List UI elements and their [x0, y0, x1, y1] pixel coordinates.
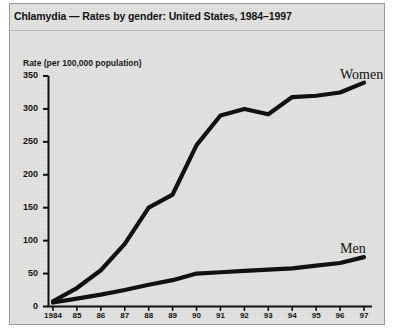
- x-tick-label: 93: [255, 311, 281, 320]
- x-tick-label: 90: [184, 311, 210, 320]
- x-tick-label: 87: [112, 311, 138, 320]
- x-tick-label: 95: [303, 311, 329, 320]
- y-tick-label: 100: [8, 235, 38, 245]
- x-tick-label: 89: [160, 311, 186, 320]
- y-tick-label: 350: [8, 70, 38, 80]
- series-line-men: [53, 257, 364, 302]
- x-tick-label: 97: [351, 311, 377, 320]
- y-tick-label: 200: [8, 169, 38, 179]
- y-tick-label: 0: [8, 301, 38, 311]
- x-tick-label: 88: [136, 311, 162, 320]
- series-label-men: Men: [340, 241, 366, 257]
- x-tick-label: 85: [64, 311, 90, 320]
- y-tick-label: 250: [8, 136, 38, 146]
- series-line-women: [53, 83, 364, 302]
- y-tick-label: 150: [8, 202, 38, 212]
- x-tick-label: 1984: [40, 311, 66, 320]
- x-tick-label: 91: [207, 311, 233, 320]
- x-tick-label: 94: [279, 311, 305, 320]
- chart-title: Chlamydia — Rates by gender: United Stat…: [14, 10, 292, 22]
- y-axis-label: Rate (per 100,000 population): [23, 58, 142, 68]
- x-tick-label: 96: [327, 311, 353, 320]
- y-tick-label: 300: [8, 103, 38, 113]
- chart-plot-area: [0, 0, 398, 334]
- y-tick-label: 50: [8, 268, 38, 278]
- series-label-women: Women: [340, 67, 383, 83]
- x-tick-label: 86: [88, 311, 114, 320]
- x-tick-label: 92: [231, 311, 257, 320]
